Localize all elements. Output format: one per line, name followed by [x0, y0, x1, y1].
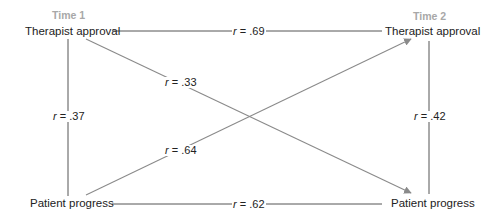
edge-label-r-33: r = .33: [164, 77, 198, 88]
time-1-label: Time 1: [52, 10, 85, 21]
node-t2-patient-progress: Patient progress: [391, 198, 475, 210]
node-t1-therapist-approval: Therapist approval: [25, 26, 120, 38]
edge-label-r-62: r = .62: [232, 199, 266, 210]
edge-label-r-42: r = .42: [413, 111, 447, 122]
edge-label-r-69: r = .69: [232, 26, 266, 37]
node-t2-therapist-approval: Therapist approval: [385, 26, 480, 38]
edge-label-r-37: r = .37: [52, 111, 86, 122]
time-2-label: Time 2: [413, 11, 446, 22]
edge-label-r-64: r = .64: [164, 145, 198, 156]
node-t1-patient-progress: Patient progress: [30, 198, 114, 210]
